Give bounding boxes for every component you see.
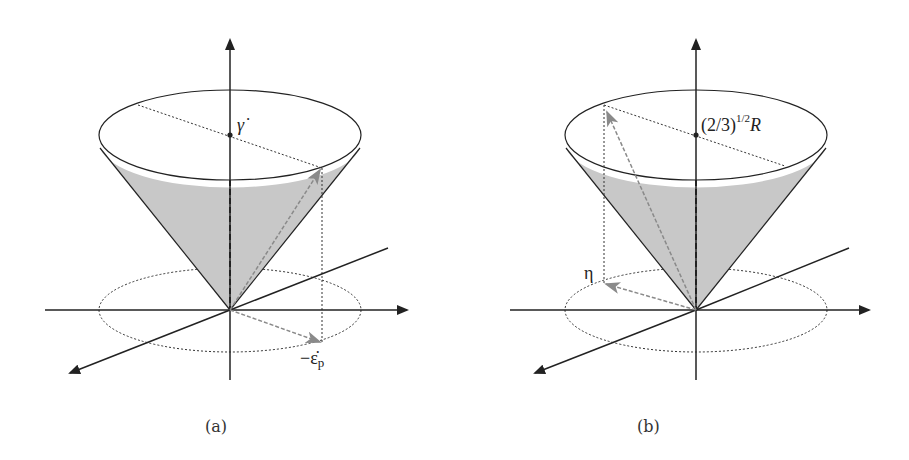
depth-axis: [70, 310, 230, 373]
depth-axis: [535, 310, 696, 373]
panel-b: (2/3)1/2R η (b): [510, 40, 869, 436]
epsilon-p-label: −ε̇p: [300, 348, 324, 370]
eta-label: η: [584, 263, 593, 283]
figure-canvas: γ̇ −ε̇p (a) (2/3)1/2R η (b): [0, 0, 909, 460]
plastic-strain-vector: [230, 310, 320, 342]
panel-a: γ̇ −ε̇p (a): [45, 40, 407, 436]
caption-a: (a): [205, 417, 227, 436]
gamma-dot-label: γ̇: [237, 115, 250, 135]
radius-label: (2/3)1/2R: [701, 112, 761, 136]
caption-b: (b): [637, 417, 660, 436]
apex-dot: [227, 132, 232, 137]
apex-dot: [693, 132, 698, 137]
